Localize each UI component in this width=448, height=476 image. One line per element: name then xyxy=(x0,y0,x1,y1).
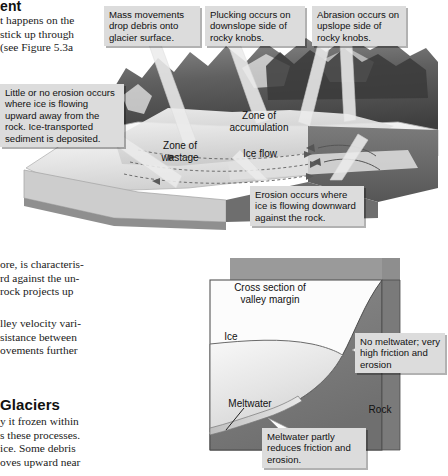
body-line: ovements further xyxy=(0,344,81,358)
body-paragraph-middle-2: lley velocity vari- sistance between ove… xyxy=(0,317,81,358)
title-line-2: valley margin xyxy=(205,294,335,306)
body-line: y it frozen within xyxy=(0,415,80,429)
label-rock: Rock xyxy=(360,404,400,416)
callout-no-meltwater[interactable]: No meltwater; very high friction and ero… xyxy=(355,333,445,373)
body-paragraph-middle: ore, is characteris- rd against the un- … xyxy=(0,258,84,299)
callout-abrasion[interactable]: Abrasion occurs on upslope side of rocky… xyxy=(312,6,406,46)
label-ice-flow: Ice flow xyxy=(232,148,288,160)
callout-meltwater-partly[interactable]: Meltwater partly reduces friction and er… xyxy=(262,428,366,468)
body-line: s these processes. xyxy=(0,429,80,443)
body-line: oves upward near xyxy=(0,456,80,470)
callout-text: Little or no erosion occurs where ice is… xyxy=(5,87,115,144)
callout-mass-movements[interactable]: Mass movements drop debris onto glacier … xyxy=(104,6,200,46)
callout-text: Plucking occurs on downslope side of roc… xyxy=(210,9,291,43)
callout-text: Abrasion occurs on upslope side of rocky… xyxy=(317,9,399,43)
body-line: rd against the un- xyxy=(0,272,84,286)
body-line: rock projects up xyxy=(0,285,84,299)
callout-text: No meltwater; very high friction and ero… xyxy=(360,336,440,370)
label-cross-section-title: Cross section of valley margin xyxy=(205,282,335,305)
label-line-1: Zone of xyxy=(216,110,302,122)
body-line: lley velocity vari- xyxy=(0,317,81,331)
label-zone-of-accumulation: Zone of accumulation xyxy=(216,110,302,133)
label-line-2: accumulation xyxy=(216,122,302,134)
callout-little-no-erosion[interactable]: Little or no erosion occurs where ice is… xyxy=(0,84,124,147)
label-ice: Ice xyxy=(216,331,246,343)
body-line: ore, is characteris- xyxy=(0,258,84,272)
subsection-heading-fragment: Glaciers xyxy=(0,396,60,413)
body-line: ice. Some debris xyxy=(0,442,80,456)
body-paragraph-bottom: y it frozen within s these processes. ic… xyxy=(0,415,80,469)
callout-text: Mass movements drop debris onto glacier … xyxy=(109,9,184,43)
label-line-2: wastage xyxy=(150,152,210,164)
callout-text: Erosion occurs where ice is flowing down… xyxy=(255,189,356,223)
callout-text: Meltwater partly reduces friction and er… xyxy=(267,431,351,465)
label-meltwater: Meltwater xyxy=(218,398,282,410)
callout-erosion-occurs[interactable]: Erosion occurs where ice is flowing down… xyxy=(250,186,364,226)
title-line-1: Cross section of xyxy=(205,282,335,294)
body-line: sistance between xyxy=(0,331,81,345)
cross-section-shadow-slab xyxy=(230,258,382,280)
label-zone-of-wastage: Zone of wastage xyxy=(150,140,210,163)
section-heading-fragment: ent xyxy=(0,0,21,14)
label-line-1: Ice flow xyxy=(232,148,288,160)
label-line-1: Zone of xyxy=(150,140,210,152)
callout-plucking[interactable]: Plucking occurs on downslope side of roc… xyxy=(205,6,305,46)
